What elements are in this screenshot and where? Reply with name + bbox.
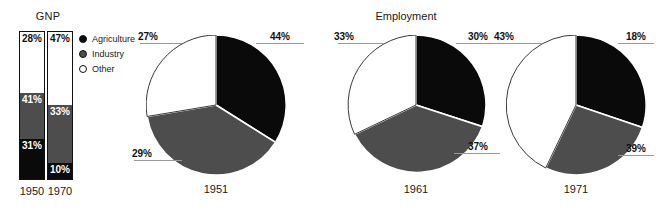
bar-segment-agriculture: 31% — [20, 139, 44, 179]
bar-segment-label: 10% — [48, 164, 72, 175]
stacked-bar-1950: 28% 41% 31% — [19, 31, 45, 180]
pie-label-agriculture: 44% — [270, 31, 290, 42]
pie-label-agriculture: 30% — [468, 31, 488, 42]
figure-root: GNP 28% 41% 31% 47% 33% 10% 1950 1970 — [0, 0, 664, 212]
bar-segment-industry: 41% — [20, 93, 44, 139]
legend-item-label: Other — [92, 64, 115, 74]
bar-segment-agriculture: 10% — [48, 163, 72, 179]
leader-line-other — [140, 43, 182, 44]
pie-canvas — [506, 35, 646, 175]
pie-label-industry: 39% — [626, 143, 646, 154]
legend-item-industry: Industry — [79, 47, 141, 60]
legend-item-label: Industry — [92, 49, 124, 59]
pie-svg — [346, 35, 486, 175]
bar-segment-label: 28% — [20, 33, 44, 44]
filled-circle-icon — [79, 50, 87, 58]
pie-year-label: 1951 — [146, 183, 286, 195]
pie-chart-1961: 33% 30% 37% 1961 — [346, 0, 486, 212]
legend-item-agriculture: Agriculture — [79, 32, 141, 45]
pie-svg — [506, 35, 646, 175]
gnp-panel: GNP 28% 41% 31% 47% 33% 10% 1950 1970 — [0, 0, 140, 212]
pie-label-other: 33% — [334, 31, 354, 42]
pie-chart-1951: 27% 44% 29% 1951 — [146, 0, 286, 212]
pie-canvas — [346, 35, 486, 175]
outline-circle-icon — [79, 65, 87, 73]
pie-label-industry: 37% — [468, 141, 488, 152]
leader-line-industry — [618, 155, 654, 156]
bar-segment-label: 47% — [48, 33, 72, 44]
bar-segment-label: 33% — [48, 106, 72, 117]
leader-line-agriculture — [256, 43, 304, 44]
leader-line-agriculture — [618, 43, 654, 44]
stacked-bar-1970: 47% 33% 10% — [47, 31, 73, 180]
bar-segment-label: 31% — [20, 140, 44, 151]
bar-segment-label: 41% — [20, 94, 44, 105]
pie-year-label: 1961 — [346, 183, 486, 195]
bar-segment-other: 47% — [48, 32, 72, 105]
pie-canvas — [146, 35, 286, 175]
filled-circle-icon — [79, 35, 87, 43]
pie-label-agriculture: 18% — [626, 31, 646, 42]
bar-segment-industry: 33% — [48, 105, 72, 163]
pie-chart-1971: 43% 18% 39% 1971 — [506, 0, 646, 212]
bar-segment-other: 28% — [20, 32, 44, 93]
pie-label-industry: 29% — [132, 148, 152, 159]
bar-year-label-1970: 1970 — [44, 185, 76, 197]
pie-label-other: 43% — [494, 31, 514, 42]
leader-line-industry — [454, 153, 500, 154]
leader-line-other — [338, 43, 384, 44]
leader-line-other — [498, 43, 542, 44]
legend: Agriculture Industry Other — [79, 32, 141, 77]
pie-label-other: 27% — [138, 31, 158, 42]
pie-year-label: 1971 — [506, 183, 646, 195]
leader-line-agriculture — [456, 43, 500, 44]
gnp-title: GNP — [20, 10, 76, 22]
pie-slice-other — [146, 35, 216, 116]
pie-svg — [146, 35, 286, 175]
leader-line-industry — [134, 160, 182, 161]
legend-item-other: Other — [79, 62, 141, 75]
legend-item-label: Agriculture — [92, 34, 135, 44]
